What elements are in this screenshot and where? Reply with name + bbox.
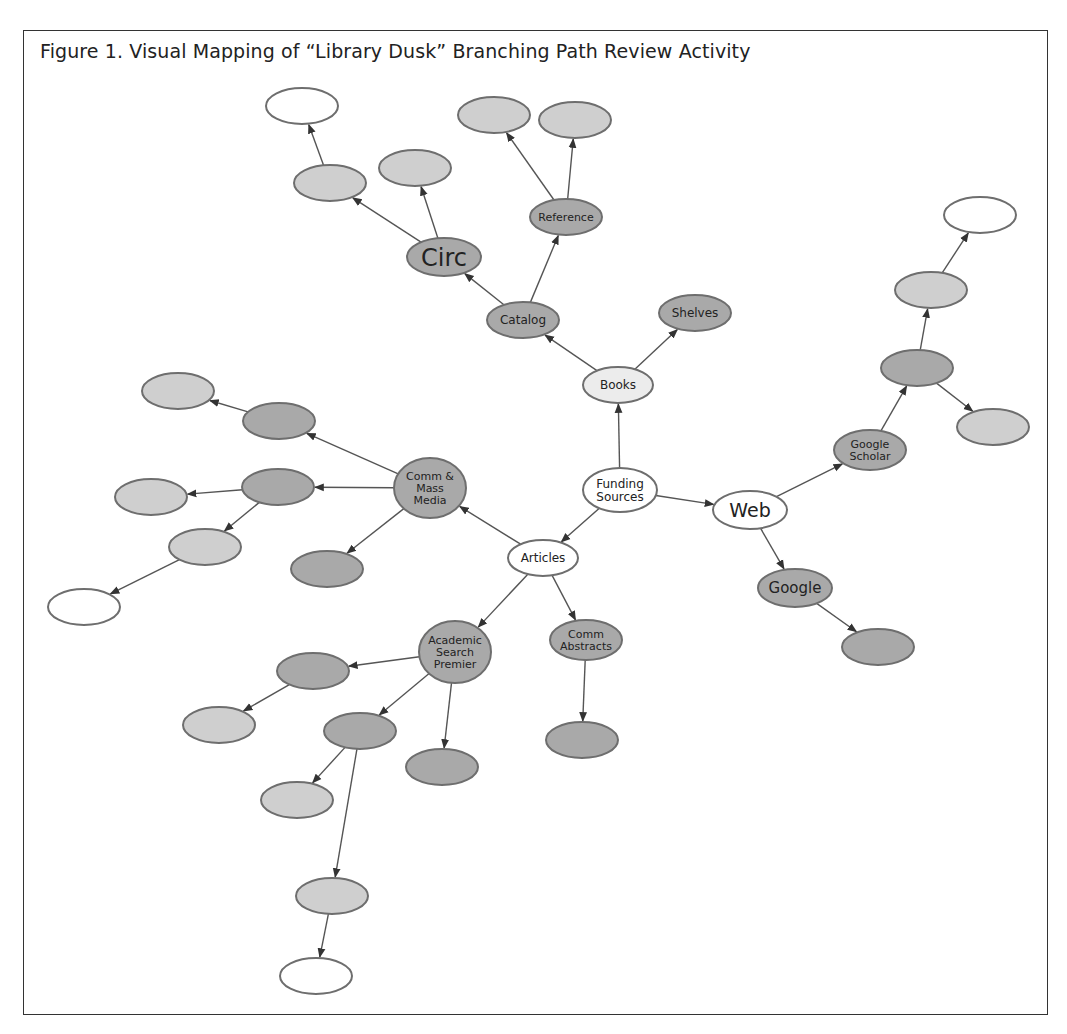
edge-arrow — [210, 400, 248, 411]
node-ellipse — [842, 629, 914, 665]
node-ellipse — [169, 529, 241, 565]
edge-arrow — [545, 335, 597, 371]
edge-arrow — [656, 496, 714, 505]
node-label: Premier — [434, 658, 477, 671]
node-label: Abstracts — [560, 640, 612, 653]
node-cmm_b2 — [169, 529, 241, 565]
edge-arrow — [224, 502, 259, 531]
node-label: Books — [600, 378, 636, 392]
node-google: Google — [758, 569, 832, 607]
node-ellipse — [539, 102, 611, 138]
node-ellipse — [944, 197, 1016, 233]
node-asp_a — [277, 653, 349, 689]
node-ref_a — [458, 97, 530, 133]
edge-arrow — [761, 528, 784, 569]
node-label: Comm & — [406, 470, 454, 483]
edge-arrow — [478, 574, 528, 627]
edge-arrow — [444, 683, 451, 748]
node-cmm_a — [243, 403, 315, 439]
edge-arrow — [635, 330, 677, 370]
edge-arrow — [379, 674, 429, 715]
edge-arrow — [421, 187, 438, 239]
node-funding: FundingSources — [583, 468, 657, 512]
node-catalog: Catalog — [487, 302, 559, 338]
node-ellipse — [379, 150, 451, 186]
node-circ_a — [294, 165, 366, 201]
edge-arrow — [335, 749, 357, 877]
node-books: Books — [583, 367, 653, 403]
node-circ_b — [379, 150, 451, 186]
edge-arrow — [817, 603, 857, 631]
edge-arrow — [307, 433, 398, 474]
node-asp_a1 — [183, 707, 255, 743]
edge-arrow — [936, 383, 972, 411]
node-ellipse — [406, 749, 478, 785]
node-cmm_b — [242, 469, 314, 505]
node-ellipse — [142, 373, 214, 409]
node-cmm_b3 — [48, 589, 120, 625]
node-ellipse — [183, 707, 255, 743]
node-ellipse — [881, 350, 953, 386]
node-ellipse — [243, 403, 315, 439]
node-ellipse — [291, 551, 363, 587]
edge-arrow — [349, 657, 420, 666]
node-articles: Articles — [508, 540, 578, 576]
node-ellipse — [324, 713, 396, 749]
node-cmm_a1 — [142, 373, 214, 409]
node-gs_a1 — [895, 272, 967, 308]
node-cmm_c — [291, 551, 363, 587]
edge-arrow — [244, 685, 290, 711]
node-cmm: Comm &MassMedia — [394, 458, 466, 518]
edge-arrow — [777, 464, 843, 497]
edge-arrow — [881, 386, 907, 431]
node-gs_a — [881, 350, 953, 386]
edge-arrow — [568, 139, 574, 199]
node-reference: Reference — [530, 199, 602, 235]
edge-arrow — [320, 914, 329, 957]
node-label: Mass — [416, 482, 444, 495]
edge-arrow — [942, 233, 968, 273]
node-ellipse — [277, 653, 349, 689]
node-ellipse — [458, 97, 530, 133]
node-gscholar: GoogleScholar — [834, 430, 906, 470]
node-ellipse — [957, 409, 1029, 445]
node-circ: Circ — [407, 238, 481, 276]
node-label: Google — [769, 579, 822, 597]
node-label: Search — [436, 646, 474, 659]
node-label: Scholar — [849, 450, 891, 463]
edge-arrow — [583, 660, 585, 721]
edge-arrow — [110, 560, 179, 594]
node-label: Reference — [538, 211, 594, 224]
node-label: Shelves — [672, 306, 719, 320]
node-ellipse — [48, 589, 120, 625]
edge-arrow — [561, 508, 599, 542]
node-asp: AcademicSearchPremier — [419, 621, 491, 683]
node-ellipse — [546, 722, 618, 758]
node-asp_b1 — [261, 782, 333, 818]
node-asp_b — [324, 713, 396, 749]
node-ellipse — [895, 272, 967, 308]
edge-arrow — [347, 509, 404, 554]
edge-arrow — [920, 309, 927, 350]
node-label: Academic — [428, 634, 482, 647]
node-cabs: CommAbstracts — [550, 620, 622, 660]
node-shelves: Shelves — [659, 295, 731, 331]
edge-arrow — [309, 125, 324, 166]
node-ellipse — [296, 878, 368, 914]
node-label: Sources — [596, 490, 643, 504]
concept-map: FundingSourcesBooksCatalogShelvesCircRef… — [0, 0, 1067, 1034]
node-asp_b2 — [296, 878, 368, 914]
node-ellipse — [242, 469, 314, 505]
node-google_a — [842, 629, 914, 665]
node-circ_a1 — [266, 88, 338, 124]
node-label: Circ — [421, 244, 467, 272]
node-ellipse — [115, 479, 187, 515]
node-layer: FundingSourcesBooksCatalogShelvesCircRef… — [48, 88, 1029, 994]
edge-arrow — [315, 487, 394, 488]
edge-arrow — [313, 747, 345, 783]
node-label: Comm — [568, 628, 604, 641]
node-label: Web — [729, 499, 770, 521]
edge-arrow — [353, 198, 421, 242]
edge-arrow — [188, 490, 243, 494]
node-ellipse — [261, 782, 333, 818]
